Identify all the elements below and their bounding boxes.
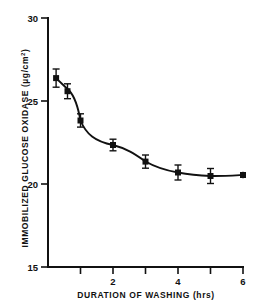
y-axis-ticks: [41, 18, 48, 267]
x-axis-title: DURATION OF WASHING (hrs): [77, 290, 215, 300]
chart-figure: 30 25 20 15 2 4 6 DURATION OF WASHING (h…: [0, 0, 256, 303]
x-tick-label-6: 6: [240, 276, 245, 287]
x-tick-label-4: 4: [175, 276, 181, 287]
svg-text:IMMOBILIZED GLUCOSE OXIDASE (µ: IMMOBILIZED GLUCOSE OXIDASE (µg/cm2): [20, 49, 30, 248]
y-tick-label-30: 30: [27, 13, 38, 24]
data-point: [142, 155, 149, 168]
data-point: [175, 165, 182, 180]
data-point: [240, 172, 246, 179]
data-points: [53, 69, 246, 184]
y-axis-title: IMMOBILIZED GLUCOSE OXIDASE (µg/cm2): [20, 49, 30, 248]
data-point: [110, 139, 117, 151]
chart-plot-area: 30 25 20 15 2 4 6 DURATION OF WASHING (h…: [0, 0, 256, 303]
x-axis-ticks: [81, 267, 244, 274]
y-tick-label-15: 15: [27, 262, 38, 273]
y-axis-title-main: IMMOBILIZED GLUCOSE OXIDASE (µg/cm: [20, 56, 30, 248]
data-point: [53, 69, 60, 87]
y-axis-title-suffix: ): [20, 49, 30, 52]
data-curve: [56, 78, 243, 176]
data-point: [207, 169, 214, 184]
x-tick-label-2: 2: [110, 276, 115, 287]
